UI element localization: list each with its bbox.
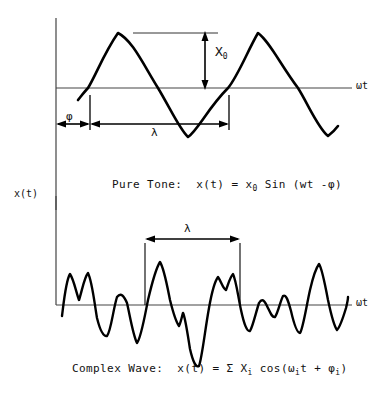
complex-wave-curve <box>62 262 348 366</box>
amplitude-symbol: X <box>215 44 223 59</box>
wave-diagram <box>0 0 389 401</box>
complex-wave-caption-mid: cos(ω <box>253 362 295 375</box>
complex-wave-caption-main: Complex Wave: x(t) = Σ X <box>72 362 248 375</box>
complex-wave-caption-end: ) <box>341 362 348 375</box>
phase-arrow-head-left <box>56 121 66 128</box>
x-axis-label-top: ωt <box>356 80 368 91</box>
complex-wave-caption-mid2: t + φ <box>300 362 335 375</box>
amplitude-label: X0 <box>215 44 228 61</box>
complex-wave-chart <box>56 196 352 366</box>
pure-tone-caption-main: Pure Tone: x(t) = x <box>112 178 252 191</box>
wavelength-arrow-head-left-bottom <box>145 236 155 243</box>
phase-arrow-head-right <box>80 121 90 128</box>
complex-wave-caption: Complex Wave: x(t) = Σ Xi cos(ωit + φi) <box>72 362 348 377</box>
pure-tone-caption: Pure Tone: x(t) = x0 Sin (wt -φ) <box>112 178 342 193</box>
wavelength-label-top: λ <box>151 126 158 139</box>
wavelength-label-bottom: λ <box>184 222 191 235</box>
y-axis-label: x(t) <box>14 188 38 199</box>
amplitude-subscript: 0 <box>223 52 228 61</box>
phase-label: φ <box>66 110 73 123</box>
pure-tone-caption-rest: Sin (wt -φ) <box>258 178 342 191</box>
sine-curve <box>78 33 338 137</box>
wavelength-arrow-head-right-bottom <box>230 236 240 243</box>
wavelength-arrow-head-right-top <box>219 121 229 128</box>
x-axis-label-bottom: ωt <box>356 297 368 308</box>
wavelength-arrow-head-left-top <box>90 121 100 128</box>
